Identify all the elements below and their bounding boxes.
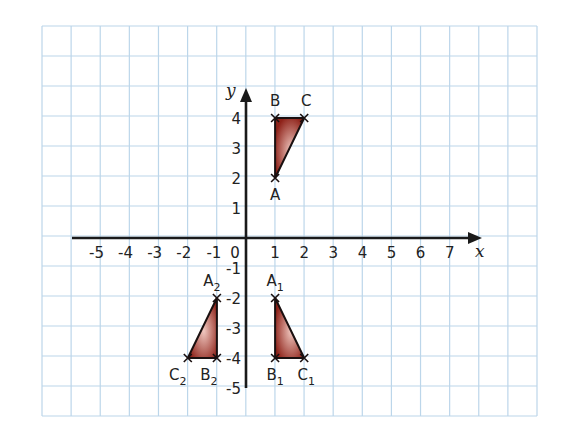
y-tick-label: -3 bbox=[226, 320, 241, 338]
vertex-label: C2 bbox=[169, 366, 186, 388]
vertex-label: C1 bbox=[297, 366, 314, 388]
x-tick-label: 2 bbox=[299, 244, 309, 262]
x-axis-label: x bbox=[475, 241, 485, 261]
y-tick-label: 1 bbox=[231, 200, 241, 218]
x-tick-label: 7 bbox=[445, 244, 455, 262]
triangle-a1b1c1: A1B1C1 bbox=[266, 272, 314, 388]
triangle-shape bbox=[275, 118, 304, 178]
x-tick-label: -1 bbox=[206, 244, 221, 262]
y-tick-label: 4 bbox=[231, 110, 241, 128]
x-tick-label: -4 bbox=[118, 244, 133, 262]
x-tick-label: 5 bbox=[387, 244, 397, 262]
triangle-shape bbox=[275, 298, 304, 358]
x-tick-label: -2 bbox=[176, 244, 191, 262]
y-tick-label: 3 bbox=[231, 140, 241, 158]
y-axis-label: y bbox=[225, 80, 236, 100]
coordinate-plane: xy -5-4-3-2-1012345674321-1-2-3-4-5 ABCA… bbox=[0, 0, 566, 442]
x-tick-label: 3 bbox=[329, 244, 339, 262]
y-tick-label: -2 bbox=[226, 290, 241, 308]
vertex-label: A2 bbox=[203, 272, 220, 294]
x-tick-label: -3 bbox=[147, 244, 162, 262]
y-axis-arrow-icon bbox=[240, 88, 252, 102]
y-tick-label: -4 bbox=[226, 350, 241, 368]
x-tick-label: 1 bbox=[270, 244, 280, 262]
x-tick-label: 6 bbox=[416, 244, 426, 262]
vertex-label: B2 bbox=[200, 366, 217, 388]
vertex-label: C bbox=[301, 92, 311, 110]
coordinate-grid-figure: xy -5-4-3-2-1012345674321-1-2-3-4-5 ABCA… bbox=[0, 0, 566, 442]
vertex-label: B bbox=[270, 92, 280, 110]
x-tick-label: -5 bbox=[89, 244, 104, 262]
y-tick-label: 2 bbox=[231, 170, 241, 188]
x-tick-label: 4 bbox=[358, 244, 368, 262]
y-tick-label: -1 bbox=[226, 260, 241, 278]
triangles: ABCA1B1C1A2B2C2 bbox=[169, 92, 315, 388]
triangle-a2b2c2: A2B2C2 bbox=[169, 272, 221, 388]
triangle-shape bbox=[188, 298, 217, 358]
vertex-label: A bbox=[270, 186, 281, 204]
y-tick-label: -5 bbox=[226, 380, 241, 398]
triangle-abc: ABC bbox=[270, 92, 311, 204]
